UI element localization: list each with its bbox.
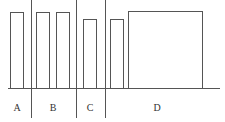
- segment-pulse-diagram: A B C D: [0, 0, 225, 122]
- segment-label-c: C: [87, 103, 94, 113]
- pulse-bar-d-4: [111, 20, 124, 89]
- segment-label-b: B: [50, 103, 57, 113]
- diagram-canvas: [0, 0, 225, 122]
- pulse-bar-d-5: [129, 12, 203, 89]
- segment-label-a: A: [13, 103, 20, 113]
- pulse-bar-b-1: [37, 13, 50, 89]
- pulse-bar-a-0: [11, 13, 24, 89]
- pulse-bar-c-3: [84, 20, 97, 89]
- segment-label-d: D: [153, 103, 160, 113]
- pulse-bar-b-2: [57, 13, 70, 89]
